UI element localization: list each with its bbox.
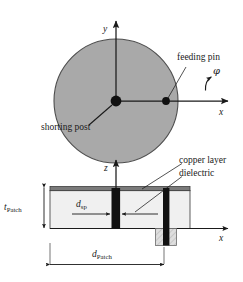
y-axis-label: y (103, 25, 107, 35)
pin-offset-dimension-label: dsp (76, 200, 87, 210)
diameter-dimension-label: dPatch (92, 250, 112, 260)
copper-layer-leader (142, 164, 182, 190)
diagram-graphics (0, 0, 243, 282)
dielectric-label: dielectric (179, 169, 214, 179)
phi-angle-label: φ (213, 66, 220, 76)
shorting-post-bar (112, 188, 121, 229)
x-axis-label-top: x (219, 108, 223, 118)
thickness-dimension-label: tPatch (4, 203, 22, 213)
feeding-pin-bar (163, 188, 169, 246)
feeding-pin-label: feeding pin (177, 53, 220, 63)
x-axis-label-side: x (219, 234, 223, 244)
feeding-pin-dot (162, 97, 170, 105)
shorting-post-label: shorting post (41, 123, 90, 133)
thickness-subscript: Patch (7, 206, 22, 213)
figure-canvas: y x φ feeding pin shorting post z x copp… (0, 0, 243, 282)
copper-layer-label: copper layer (179, 156, 226, 166)
diameter-subscript: Patch (97, 253, 112, 260)
pin-offset-subscript: sp (81, 203, 87, 210)
z-axis-label: z (104, 164, 108, 174)
shorting-post-dot (111, 96, 122, 107)
phi-rotation-arrow (205, 77, 211, 91)
